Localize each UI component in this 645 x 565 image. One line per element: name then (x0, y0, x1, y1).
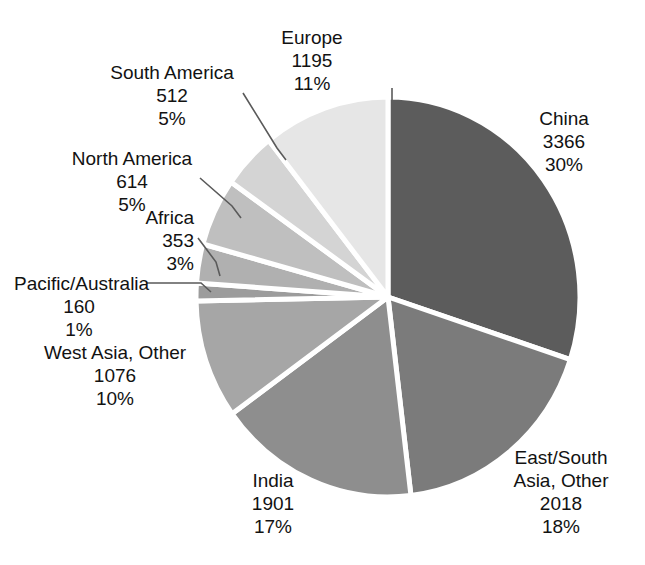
slice-label-west-asia: West Asia, Other 1076 10% (24, 341, 206, 410)
slice-label-europe-name: Europe (232, 26, 392, 49)
slice-label-north-america-value: 614 (52, 170, 212, 193)
slice-label-south-america: South America 512 5% (92, 61, 252, 130)
slice-label-west-asia-name: West Asia, Other (24, 341, 206, 364)
slice-label-india-name: India (218, 469, 328, 492)
slice-label-east-south-asia-value: 2018 (486, 492, 636, 515)
slice-label-pacific-australia-percent: 1% (14, 318, 144, 341)
slice-label-india: India 1901 17% (218, 469, 328, 538)
slice-label-east-south-asia-name2: Asia, Other (486, 469, 636, 492)
slice-label-south-america-value: 512 (92, 84, 252, 107)
slice-label-europe: Europe 1195 11% (232, 26, 392, 95)
slice-label-india-value: 1901 (218, 492, 328, 515)
slice-label-europe-value: 1195 (232, 49, 392, 72)
slice-label-africa-name: Africa (62, 206, 194, 229)
slice-label-west-asia-value: 1076 (24, 364, 206, 387)
slice-label-north-america-name: North America (52, 147, 212, 170)
slice-label-africa: Africa 353 3% (62, 206, 194, 275)
slice-label-south-america-percent: 5% (92, 107, 252, 130)
slice-label-china: China 3366 30% (496, 107, 632, 176)
slice-label-china-name: China (496, 107, 632, 130)
slice-label-china-percent: 30% (496, 153, 632, 176)
slice-label-east-south-asia-percent: 18% (486, 515, 636, 538)
slice-label-africa-value: 353 (62, 229, 194, 252)
slice-label-europe-percent: 11% (232, 72, 392, 95)
slice-label-south-america-name: South America (92, 61, 252, 84)
slice-label-india-percent: 17% (218, 515, 328, 538)
slice-label-pacific-australia: Pacific/Australia 160 1% (14, 272, 144, 341)
pie-chart-figure: Europe 1195 11% South America 512 5% Nor… (0, 0, 645, 565)
slice-label-pacific-australia-value: 160 (14, 295, 144, 318)
slice-label-china-value: 3366 (496, 130, 632, 153)
slice-label-west-asia-percent: 10% (24, 387, 206, 410)
slice-label-pacific-australia-name: Pacific/Australia (14, 272, 144, 295)
slice-label-east-south-asia: East/South Asia, Other 2018 18% (486, 446, 636, 538)
slice-label-east-south-asia-name: East/South (486, 446, 636, 469)
